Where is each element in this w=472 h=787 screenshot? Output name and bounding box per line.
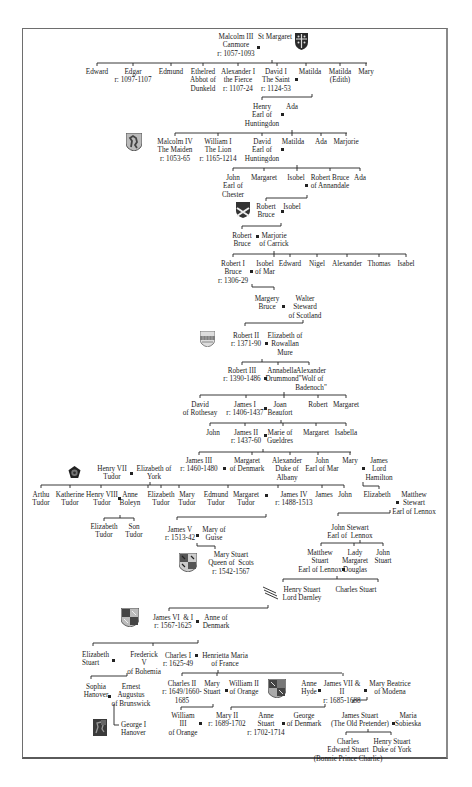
person-john-stuart: John Stuart xyxy=(374,549,391,566)
person-annabella-drummond: Annabella Drummond xyxy=(265,367,298,384)
marriage-marker xyxy=(199,722,202,725)
person-isobel-2: Isobel xyxy=(283,203,301,211)
person-marie-gueldres: Marie of Gueldres xyxy=(267,429,293,446)
person-mary-queen-of-scots: Mary Stuart Queen of Scots r: 1542-1567 xyxy=(208,551,254,576)
person-john: John xyxy=(206,429,220,437)
person-alexander-i: Alexander I the Fierce r: 1107-24 xyxy=(221,68,255,93)
person-mary-tudor: Mary Tudor xyxy=(178,491,195,508)
mary-queen-of-scots-arms-icon xyxy=(179,553,197,572)
person-margaret-douglas: Lady Margaret Douglas xyxy=(342,549,368,574)
person-robert-ii: Robert II r: 1371-90 xyxy=(231,332,261,349)
bruce-saltire-arms-icon xyxy=(236,202,250,218)
person-james-vii-ii: James VII & II r: 1685-1688 xyxy=(323,680,360,705)
person-joan-beaufort: Joan Beaufort xyxy=(267,401,292,418)
person-alexander-wolf: Alexander "Wolf of Badenoch" xyxy=(295,367,327,392)
marriage-marker xyxy=(256,235,259,238)
person-mary-ii: Mary II r: 1689-1702 xyxy=(208,712,245,729)
person-mary-stuart: Mary Stuart xyxy=(203,680,220,697)
person-james-ii: James II r: 1437-60 xyxy=(231,429,261,446)
person-margaret-2: Margaret xyxy=(333,401,359,409)
person-matilda-edith: Matilda (Edith) xyxy=(329,68,351,85)
marriage-marker xyxy=(362,467,365,470)
marriage-marker xyxy=(195,654,198,657)
person-mary-2: Mary xyxy=(342,457,358,465)
person-malcolm-iii: Malcolm III Canmore r: 1057-1093 xyxy=(217,33,254,58)
person-elizabeth-york: Elizabeth of York xyxy=(137,465,172,482)
person-thomas: Thomas xyxy=(367,260,390,268)
person-st-margaret: St Margaret xyxy=(258,33,292,41)
person-john-mar: John Earl of Mar xyxy=(305,457,339,474)
marriage-marker xyxy=(318,689,321,692)
person-frederick-v: Frederick V of Bohemia xyxy=(127,651,161,676)
person-matthew-stuart-lennox: Matthew Stuart Earl of Lennox xyxy=(298,549,342,574)
person-william-iii: William III of Orange xyxy=(169,712,198,737)
person-mary: Mary xyxy=(358,68,374,76)
person-mary-beatrice-modena: Mary Beatrice of Modena xyxy=(369,680,410,697)
marriage-marker xyxy=(108,695,111,698)
marriage-marker xyxy=(364,689,367,692)
person-john-chester: John Earl of Chester xyxy=(222,174,244,199)
person-david-rothesay: David of Rothesay xyxy=(183,401,218,418)
person-ada: Ada xyxy=(286,103,298,111)
person-james: James xyxy=(315,491,333,499)
person-margaret-3: Margaret xyxy=(303,429,329,437)
person-charles-i: Charles I r: 1625-49 xyxy=(163,652,193,669)
tudor-rose-icon xyxy=(68,466,81,479)
person-margaret-denmark: Margaret of Denmark xyxy=(230,457,265,474)
marriage-marker xyxy=(250,270,253,273)
marriage-marker xyxy=(196,620,199,623)
person-elizabeth: Elizabeth xyxy=(363,491,390,499)
person-george-i: George I Hanover xyxy=(121,721,146,738)
person-arthur-tudor: Arthu Tudor xyxy=(32,491,49,508)
person-charles-ii: Charles II r: 1649/1660- 1685 xyxy=(162,680,201,705)
person-henry-vii: Henry VII Tudor xyxy=(97,465,127,482)
person-james-iv: James IV r: 1488-1513 xyxy=(275,491,312,508)
person-henry-viii: Henry VIII Tudor xyxy=(86,491,118,508)
person-ada-2: Ada xyxy=(315,138,327,146)
person-marjorie-carrick: Marjorie of Carrick xyxy=(259,232,288,249)
person-henry-darnley: Henry Stuart Lord Darnley xyxy=(283,586,322,603)
person-anne-hyde: Anne Hyde xyxy=(301,680,317,697)
person-charles-stuart: Charles Stuart xyxy=(336,586,377,594)
person-david-huntingdon: David Earl of Huntingdon xyxy=(245,138,279,163)
person-james-i: James I r: 1406-1437 xyxy=(226,401,263,418)
person-james-v: James V r: 1513-42 xyxy=(165,526,195,543)
person-elizabeth-tudor-2: Elizabeth Tudor xyxy=(90,523,117,540)
marriage-marker xyxy=(295,78,298,81)
hanover-arms-icon xyxy=(93,719,107,736)
person-john-2: John xyxy=(338,491,352,499)
person-edward: Edward xyxy=(86,68,108,76)
person-james-hamilton: James Lord Hamilton xyxy=(365,457,392,482)
person-isabel: Isabel xyxy=(397,260,414,268)
person-anne-stuart: Anne Stuart r: 1702-1714 xyxy=(247,712,284,737)
person-matilda-2: Matilda xyxy=(282,138,304,146)
person-alexander-albany: Alexander Duke of Albany xyxy=(272,457,302,482)
person-george-denmark: George of Denmark xyxy=(287,712,322,729)
marriage-marker xyxy=(112,659,115,662)
person-matthew-stewart-lennox: Matthew Stewart Earl of Lennox xyxy=(392,491,436,516)
person-elizabeth-tudor: Elizabeth Tudor xyxy=(147,491,174,508)
marriage-marker xyxy=(265,494,268,497)
person-robert-i: Robert I Bruce r: 1306-29 xyxy=(218,260,248,285)
person-sophia-hanover: Sophia Hanover xyxy=(84,683,109,700)
person-william-i: William I The Lion r: 1165-1214 xyxy=(199,138,236,163)
person-edgar: Edgar r: 1097-1107 xyxy=(114,68,151,85)
person-anne-boleyn: Anne Boleyn xyxy=(120,491,141,508)
person-edmund: Edmund xyxy=(159,68,183,76)
person-margaret-tudor: Margaret Tudor xyxy=(233,491,259,508)
person-old-pretender: James Stuart (The Old Pretender) xyxy=(331,712,389,729)
marriage-marker xyxy=(130,472,133,475)
person-mary-guise: Mary of Guise xyxy=(202,526,225,543)
person-margaret: Margaret xyxy=(251,174,277,182)
person-isobel-mar: Isobel of Mar xyxy=(255,260,275,277)
person-robert-bruce-3: Robert Bruce xyxy=(232,232,252,249)
person-nigel: Nigel xyxy=(309,260,325,268)
marriage-marker xyxy=(305,184,308,187)
person-robert-bruce-annandale: Robert Bruce of Annandale xyxy=(311,174,350,191)
person-alexander-2: Alexander xyxy=(332,260,362,268)
person-matilda: Matilda xyxy=(299,68,321,76)
stewart-checky-arms-icon xyxy=(200,331,215,347)
person-henry-huntingdon: Henry Earl of Huntingdon xyxy=(245,103,279,128)
person-elizabeth-mure: Elizabeth of Rowallan Mure xyxy=(268,332,303,357)
marriage-marker xyxy=(282,722,285,725)
